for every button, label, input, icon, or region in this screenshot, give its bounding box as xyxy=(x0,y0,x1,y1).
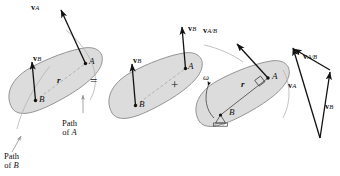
label-v-A-over-B-triangle: vA/B xyxy=(303,52,317,61)
point-A-1 xyxy=(84,62,87,65)
label-v-B-triangle: vB xyxy=(325,102,333,111)
label-v-A-triangle: vA xyxy=(288,81,296,90)
point-B-1 xyxy=(34,99,37,102)
label-r-3: r xyxy=(241,80,245,89)
point-B-2 xyxy=(134,104,137,107)
label-v-A-1: vA xyxy=(31,3,39,12)
panel-vector-triangle xyxy=(293,48,330,138)
point-A-3 xyxy=(266,76,269,79)
label-point-A-3: A xyxy=(272,72,278,81)
point-B-3 xyxy=(219,113,222,116)
point-A-2 xyxy=(184,67,187,70)
label-v-B-at-B: vB xyxy=(133,56,141,65)
label-v-B-at-A: vB xyxy=(188,24,196,33)
label-point-A-1: A xyxy=(89,57,95,66)
panel-general-plane-motion xyxy=(9,10,102,152)
label-path-of-B: Path of B xyxy=(4,152,19,170)
label-point-A-2: A xyxy=(188,62,194,71)
label-v-B-1: vB xyxy=(33,54,41,63)
label-r-1: r xyxy=(57,76,61,85)
plus-operator: + xyxy=(171,78,178,92)
label-v-A-over-B-3: vA/B xyxy=(203,26,217,35)
label-omega: ω xyxy=(203,73,209,82)
path-of-B-leader xyxy=(12,136,21,152)
path-curve-upper-3 xyxy=(204,45,243,62)
path-of-A-line2: of xyxy=(62,127,71,137)
panel-translation xyxy=(109,27,202,118)
label-path-of-A: Path of A xyxy=(62,119,77,137)
label-point-B-3: B xyxy=(229,108,235,117)
path-of-B-target: B xyxy=(14,160,19,170)
equals-operator: = xyxy=(90,74,97,88)
path-of-B-line2: of xyxy=(4,160,13,170)
label-point-B-1: B xyxy=(39,95,45,104)
relative-velocity-figure: vA vB A B r Path of A Path of B = vB vB … xyxy=(0,0,340,176)
path-of-A-target: A xyxy=(72,127,77,137)
label-point-B-2: B xyxy=(139,100,145,109)
